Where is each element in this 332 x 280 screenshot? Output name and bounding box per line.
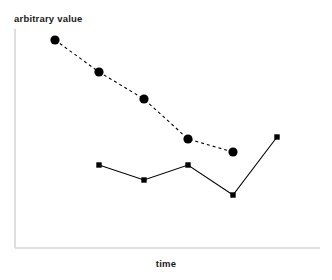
series-1-point-5	[228, 147, 237, 156]
series-1-point-2	[94, 67, 103, 76]
series-2-point-2	[141, 177, 146, 182]
series-1-point-4	[183, 134, 192, 143]
series-2-point-1	[96, 162, 101, 167]
series-2-group	[96, 134, 279, 197]
series-1-point-3	[139, 94, 148, 103]
series-1-point-1	[50, 35, 59, 44]
chart-container: arbitrary value time	[0, 0, 332, 280]
series-group	[50, 35, 279, 197]
series-2-point-4	[230, 192, 235, 197]
x-axis-label: time	[0, 258, 332, 269]
series-2-point-3	[185, 162, 190, 167]
plot-area	[0, 0, 332, 280]
axes-group	[15, 29, 320, 248]
series-1-group	[50, 35, 237, 156]
series-2-point-5	[274, 134, 279, 139]
